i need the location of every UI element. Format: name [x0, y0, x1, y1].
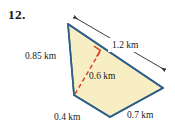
altitude-label: 0.6 km — [89, 72, 115, 82]
side-label-bottom-left: 0.4 km — [54, 113, 80, 123]
side-label-left: 0.85 km — [25, 52, 56, 62]
side-label-bottom-right: 0.7 km — [127, 111, 153, 121]
quadrilateral-shape — [68, 24, 163, 117]
problem-number: 12. — [8, 8, 25, 22]
side-label-top-right: 1.2 km — [112, 41, 138, 51]
geometry-figure: 12. 0.85 km 1.2 km 0.6 km 0.4 km 0.7 km — [0, 0, 175, 131]
